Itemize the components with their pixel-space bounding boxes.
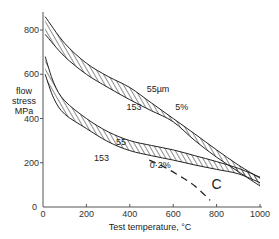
annotation-label: 5% (175, 102, 188, 112)
y-tick-label: 800 (24, 25, 39, 35)
x-tick-label: 1000 (250, 209, 270, 219)
x-tick-label: 600 (166, 209, 181, 219)
y-tick-label: 600 (24, 69, 39, 79)
annotation-label: 153 (127, 102, 142, 112)
annotation-label: 55µm (147, 84, 170, 94)
annotation-label: 55 (116, 137, 126, 147)
x-tick-label: 400 (122, 209, 137, 219)
svg-text:MPa: MPa (15, 106, 34, 116)
x-tick-label: 200 (79, 209, 94, 219)
y-tick-label: 200 (24, 158, 39, 168)
svg-text:flow: flow (16, 86, 33, 96)
annotation-label: C (212, 176, 222, 192)
annotation-label: 0·2% (150, 160, 171, 170)
x-tick-label: 800 (209, 209, 224, 219)
y-axis-title: flow stress MPa (12, 86, 37, 116)
x-tick-label: 0 (40, 209, 45, 219)
flow-stress-chart: 020040060080002004006008001000 55µm1535%… (0, 0, 279, 239)
annotation-label: 153 (94, 153, 109, 163)
plot-area (45, 17, 260, 201)
y-tick-label: 0 (32, 202, 37, 212)
x-axis-title: Test temperature, °C (109, 222, 192, 232)
svg-text:stress: stress (12, 96, 37, 106)
